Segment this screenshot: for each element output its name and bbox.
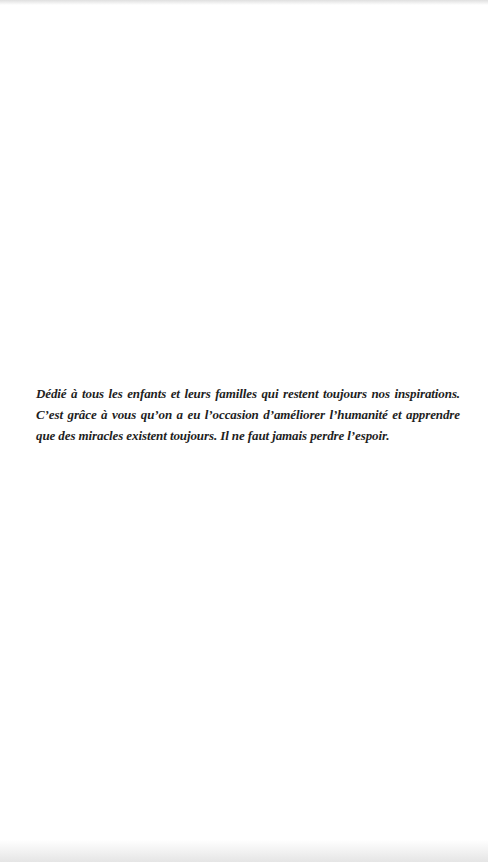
dedication-line-1: Dédié à tous les enfants et leurs famill… [36,383,460,404]
dedication-line-2: C’est grâce à vous qu’on a eu l’occasion… [36,404,460,425]
book-page: Dédié à tous les enfants et leurs famill… [0,0,488,862]
dedication-paragraph: Dédié à tous les enfants et leurs famill… [36,383,460,446]
top-scan-edge-shadow [0,0,488,5]
bottom-scan-edge-shadow [0,840,488,862]
dedication-line-3: que des miracles existent toujours. Il n… [36,425,460,446]
